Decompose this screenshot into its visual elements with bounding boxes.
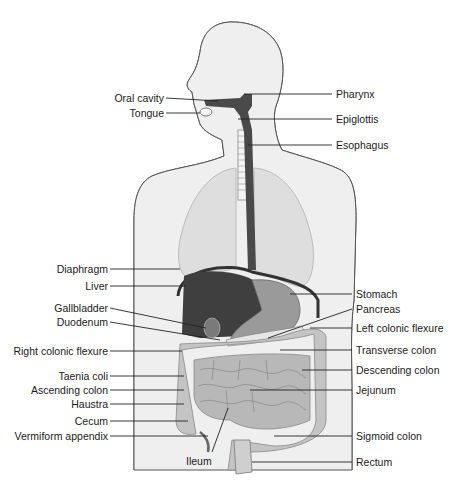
label-right-colonic-flexure: Right colonic flexure [13, 345, 108, 357]
label-vermiform-appendix: Vermiform appendix [15, 430, 108, 442]
label-duodenum: Duodenum [57, 316, 108, 328]
label-gallbladder: Gallbladder [54, 302, 108, 314]
digestive-system-diagram: Oral cavity Tongue Diaphragm Liver Gallb… [0, 0, 456, 490]
label-stomach: Stomach [356, 288, 397, 300]
label-pharynx: Pharynx [336, 88, 375, 100]
label-cecum: Cecum [75, 415, 108, 427]
anatomy-illustration [0, 0, 456, 490]
label-oral-cavity: Oral cavity [114, 92, 164, 104]
label-esophagus: Esophagus [336, 139, 389, 151]
label-diaphragm: Diaphragm [57, 263, 108, 275]
label-left-colonic-flexure: Left colonic flexure [356, 322, 444, 334]
rectum [234, 440, 252, 474]
label-liver: Liver [85, 280, 108, 292]
label-pancreas: Pancreas [356, 303, 400, 315]
label-sigmoid-colon: Sigmoid colon [356, 430, 422, 442]
label-ileum: Ileum [186, 455, 212, 467]
label-jejunum: Jejunum [356, 384, 396, 396]
label-ascending-colon: Ascending colon [31, 384, 108, 396]
gallbladder [204, 318, 220, 338]
label-rectum: Rectum [356, 456, 392, 468]
label-descending-colon: Descending colon [356, 364, 439, 376]
label-tongue: Tongue [130, 107, 164, 119]
label-epiglottis: Epiglottis [336, 113, 379, 125]
lip [200, 108, 212, 116]
label-transverse-colon: Transverse colon [356, 344, 436, 356]
label-haustra: Haustra [71, 398, 108, 410]
label-taenia-coli: Taenia coli [58, 370, 108, 382]
